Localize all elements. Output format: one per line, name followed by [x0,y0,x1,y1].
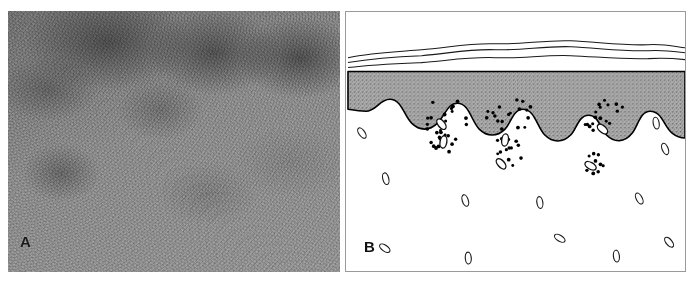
infiltrate-dot [507,146,511,150]
infiltrate-dot [529,105,533,109]
infiltrate-dot [446,134,450,138]
infiltrate-dot [517,144,520,147]
infiltrate-dot [514,139,518,143]
infiltrate-dot [507,113,510,116]
infiltrate-dot [493,114,497,118]
figure-container: A [0,0,699,286]
infiltrate-dot [591,129,594,132]
skin-cross-section-diagram [346,12,685,271]
infiltrate-dot [523,126,526,129]
panel-a-label: A [20,233,31,250]
infiltrate-dot [599,106,602,109]
infiltrate-dot [588,155,591,158]
infiltrate-dot [464,116,468,120]
infiltrate-dot [597,103,601,107]
dermal-vessel [465,252,472,264]
infiltrate-dot [515,98,518,101]
infiltrate-dot [426,116,429,119]
infiltrate-dot [496,152,499,155]
infiltrate-dot [519,156,523,160]
infiltrate-dot [439,130,443,134]
panel-a-photomicrograph [8,11,340,272]
infiltrate-dot [443,113,447,117]
infiltrate-dot [450,107,453,110]
infiltrate-dot [500,120,504,124]
infiltrate-dot [511,164,514,167]
infiltrate-dot [485,116,489,120]
infiltrate-dot [429,141,432,144]
infiltrate-dot [616,109,619,112]
infiltrate-dot [592,152,596,156]
infiltrate-dot [451,110,454,113]
infiltrate-dot [465,123,468,126]
infiltrate-dot [500,127,504,131]
infiltrate-dot [597,153,600,156]
infiltrate-dot [447,150,451,154]
infiltrate-dot [614,102,618,106]
panel-a-film-grain-fine [8,11,340,272]
infiltrate-dot [525,109,528,112]
infiltrate-dot [602,164,605,167]
infiltrate-dot [516,126,520,130]
infiltrate-dot [518,107,522,111]
infiltrate-dot [456,100,460,104]
infiltrate-dot [591,122,594,125]
infiltrate-dot [496,139,499,142]
infiltrate-dot [486,110,489,113]
infiltrate-dot [496,119,499,122]
infiltrate-dot [585,169,588,172]
infiltrate-dot [491,111,494,114]
infiltrate-dot [606,103,609,106]
infiltrate-dot [594,159,598,163]
infiltrate-dot [621,105,624,108]
infiltrate-dot [435,131,439,135]
infiltrate-dot [586,123,589,126]
infiltrate-dot [591,172,595,176]
infiltrate-dot [431,101,434,104]
infiltrate-dot [454,138,457,141]
infiltrate-dot [608,122,611,125]
infiltrate-dot [594,110,597,113]
infiltrate-dot [498,105,502,109]
infiltrate-dot [432,144,436,148]
infiltrate-dot [593,115,597,119]
infiltrate-dot [605,120,608,123]
infiltrate-dot [603,99,606,102]
infiltrate-dot [499,150,503,154]
infiltrate-dot [426,123,429,126]
panel-b-schematic [345,11,686,272]
infiltrate-dot [450,142,454,146]
infiltrate-dot [429,116,433,120]
panel-b-label: B [364,238,375,255]
infiltrate-dot [425,127,429,131]
infiltrate-dot [507,158,511,162]
infiltrate-dot [598,116,602,120]
infiltrate-dot [521,100,524,103]
infiltrate-dot [526,116,530,120]
infiltrate-dot [596,170,600,174]
